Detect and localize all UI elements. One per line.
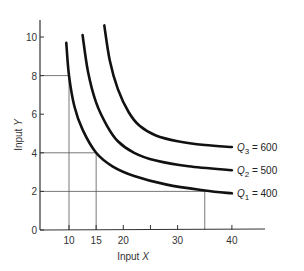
y-tick-label: 6 [31,109,37,120]
x-tick-label: 20 [118,235,130,246]
isoquant-q1-label: Q1 = 400 [237,188,278,202]
isoquant-q2-label: Q2 = 500 [237,165,278,179]
x-tick-label: 40 [226,235,238,246]
axes [40,20,265,230]
x-tick-label: 30 [172,235,184,246]
isoquant-q3-curve [104,25,232,147]
y-tick-label: 10 [26,32,38,43]
y-axis-label: Input Y [13,118,24,151]
isoquant-curves: Q1 = 400Q2 = 500Q3 = 600 [66,25,277,202]
y-tick-label: 0 [31,225,37,236]
isoquant-chart: Q1 = 400Q2 = 500Q3 = 600 101520304002468… [0,0,304,271]
isoquant-q3-label: Q3 = 600 [237,142,278,156]
x-tick-label: 10 [63,235,75,246]
isoquant-q2-curve [83,35,232,170]
y-tick-label: 4 [31,148,37,159]
y-tick-label: 2 [31,186,37,197]
tick-labels: 10152030400246810 [26,32,238,246]
isoquant-q1-curve [66,43,232,194]
y-tick-label: 8 [31,71,37,82]
x-axis-label: Input X [117,251,149,262]
x-tick-label: 15 [91,235,103,246]
x-axis-line [40,229,265,230]
